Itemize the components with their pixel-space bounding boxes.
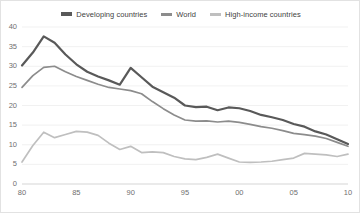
y-axis-tick-label: 20 [9,102,17,110]
line-chart: Developing countries World High-income c… [0,0,360,213]
line-swatch-icon [161,13,172,16]
legend-item-label: World [176,10,196,19]
chart-legend: Developing countries World High-income c… [1,6,360,22]
y-axis-tick-label: 15 [9,121,17,129]
x-axis-tick-label: 85 [72,189,80,197]
legend-item[interactable]: Developing countries [61,10,147,19]
y-axis-tick-label: 30 [9,63,17,71]
x-axis-tick-label: 90 [126,189,134,197]
series-lines [22,36,348,162]
line-swatch-icon [210,13,221,16]
series-line [22,131,348,162]
y-axis-tick-label: 25 [9,82,17,90]
x-axis-tick-label: 10 [344,189,352,197]
legend-item[interactable]: High-income countries [210,10,301,19]
y-axis-tick-label: 10 [9,141,17,149]
y-axis-tick-label: 40 [9,23,17,31]
series-line [22,36,348,144]
y-axis-tick-label: 5 [13,161,17,169]
y-axis-tick-label: 35 [9,43,17,51]
x-axis-tick-label: 95 [181,189,189,197]
y-axis-tick-labels: 0510152025303540 [1,27,17,184]
plot-svg [22,27,348,184]
legend-item[interactable]: World [161,10,196,19]
legend-item-label: High-income countries [225,10,301,19]
x-axis-tick-label: 80 [18,189,26,197]
x-axis-tick-label: 00 [235,189,243,197]
plot-area [22,27,348,184]
line-swatch-icon [61,12,72,16]
x-axis-tick-label: 05 [289,189,297,197]
x-axis-tick-labels: 80859095000510 [22,189,348,203]
y-axis-tick-label: 0 [13,180,17,188]
legend-item-label: Developing countries [76,10,147,19]
